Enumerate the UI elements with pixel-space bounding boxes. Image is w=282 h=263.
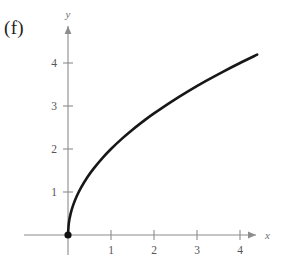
- x-axis-tick-labels-group: 1 2 3 4: [108, 244, 243, 256]
- x-tick-label-2: 2: [151, 244, 157, 256]
- y-tick-label-1: 1: [51, 186, 57, 198]
- figure-container: (f) 1 2 3 4 1 2 3: [0, 0, 282, 263]
- y-axis-label: y: [65, 8, 71, 20]
- y-tick-label-4: 4: [51, 57, 57, 69]
- plot-svg: 1 2 3 4 1 2 3 4 x y: [0, 0, 282, 263]
- x-axis-label: x: [264, 229, 270, 241]
- y-tick-label-2: 2: [51, 143, 57, 155]
- y-tick-label-3: 3: [51, 100, 57, 112]
- x-tick-label-4: 4: [237, 244, 243, 256]
- x-axis-arrowhead: [248, 232, 256, 239]
- x-tick-label-1: 1: [108, 244, 114, 256]
- origin-point-marker: [64, 231, 71, 238]
- y-axis-arrowhead: [65, 26, 72, 34]
- axes-group: [24, 26, 256, 255]
- function-curve: [68, 55, 257, 235]
- x-tick-label-3: 3: [194, 244, 200, 256]
- y-axis-tick-labels-group: 1 2 3 4: [51, 57, 57, 198]
